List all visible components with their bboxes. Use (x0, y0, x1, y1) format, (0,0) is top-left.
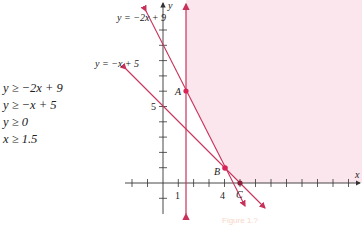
label-y-axis: y (167, 0, 173, 11)
tick-label-4: 4 (220, 190, 225, 201)
label-x-axis: x (354, 169, 360, 180)
label-line1: y = −2x + 9 (116, 12, 166, 23)
label-point-a: A (174, 86, 182, 97)
graph: y = −2x + 9 y = −x + 5 y x 1 4 5 A B C (0, 0, 362, 227)
label-point-b: B (214, 166, 220, 177)
point-c (237, 180, 242, 185)
tick-label-5: 5 (151, 101, 156, 112)
figure-caption: Figure 1.? (222, 216, 258, 225)
point-a (183, 88, 188, 93)
point-b (222, 165, 228, 171)
label-point-c: C (236, 189, 243, 200)
label-line2: y = −x + 5 (94, 58, 139, 69)
tick-label-1: 1 (175, 190, 180, 201)
